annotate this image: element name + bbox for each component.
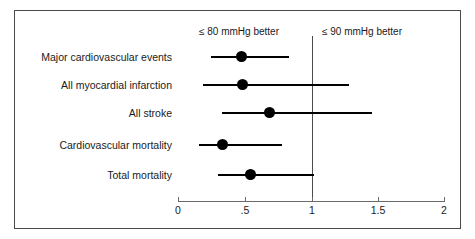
x-axis-tick-0 (178, 197, 179, 201)
ci-line-major-cardiovascular-events (211, 56, 289, 58)
point-marker-total-mortality (245, 169, 256, 180)
forest-plot-figure: ≤ 80 mmHg better ≤ 90 mmHg better Major … (0, 0, 475, 239)
reference-line-null-effect (312, 36, 313, 201)
ci-line-total-mortality (218, 174, 314, 176)
x-axis-tick-1point5 (378, 197, 379, 201)
point-marker-all-myocardial-infarction (237, 79, 248, 90)
row-label-all-stroke: All stroke (129, 107, 172, 119)
point-marker-all-stroke (264, 107, 275, 118)
header-right-label: ≤ 90 mmHg better (322, 26, 402, 38)
x-axis-line (178, 201, 445, 202)
x-axis-tick-0point5 (245, 197, 246, 201)
x-axis-tick-1 (312, 197, 313, 201)
x-axis-tick-label-1point5: 1.5 (358, 204, 398, 216)
x-axis-tick-label-2: 2 (424, 204, 464, 216)
row-label-major-cardiovascular-events: Major cardiovascular events (41, 51, 172, 63)
x-axis-tick-label-0point5: .5 (225, 204, 265, 216)
x-axis-tick-label-1: 1 (292, 204, 332, 216)
x-axis-tick-2 (444, 197, 445, 201)
row-label-all-myocardial-infarction: All myocardial infarction (61, 79, 172, 91)
ci-line-all-myocardial-infarction (203, 84, 349, 86)
ci-line-all-stroke (222, 112, 372, 114)
point-marker-major-cardiovascular-events (236, 51, 247, 62)
plot-area: ≤ 80 mmHg better ≤ 90 mmHg better Major … (0, 0, 475, 239)
x-axis-tick-label-0: 0 (158, 204, 198, 216)
row-label-cardiovascular-mortality: Cardiovascular mortality (59, 139, 172, 151)
ci-line-cardiovascular-mortality (199, 144, 282, 146)
header-left-label: ≤ 80 mmHg better (199, 26, 279, 38)
row-label-total-mortality: Total mortality (107, 169, 172, 181)
point-marker-cardiovascular-mortality (217, 139, 228, 150)
